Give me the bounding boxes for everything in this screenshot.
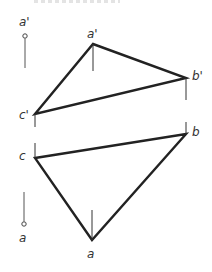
top-view-triangle	[35, 122, 186, 240]
reference-marker-a-prime	[23, 34, 27, 68]
diagram-svg	[0, 0, 212, 272]
label-a: a	[87, 248, 94, 260]
label-b-prime: b'	[192, 70, 203, 82]
front-view-triangle	[35, 44, 186, 127]
projection-diagram: a' a' b' c' c b a a	[0, 0, 212, 272]
triangle-a-b-c	[35, 134, 186, 240]
reference-marker-a	[22, 192, 26, 226]
label-a-prime: a'	[87, 28, 98, 40]
point-circle-icon	[22, 222, 26, 226]
point-circle-icon	[23, 34, 27, 38]
label-c: c	[19, 150, 26, 162]
label-ref-a: a	[19, 232, 26, 244]
triangle-a-prime-b-prime-c-prime	[35, 44, 186, 114]
label-c-prime: c'	[19, 109, 29, 121]
label-ref-a-prime: a'	[19, 16, 30, 28]
label-b: b	[192, 126, 200, 138]
